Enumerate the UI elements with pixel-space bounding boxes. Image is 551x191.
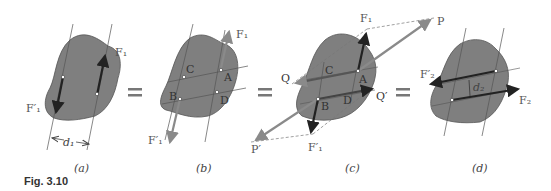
- panel-a: F₁ F′₁ d₁ (a): [26, 24, 127, 175]
- label-A: A: [358, 73, 368, 86]
- equals-sign-2: [258, 88, 272, 97]
- label-F2: F₂: [519, 94, 531, 107]
- point-B: [178, 97, 181, 100]
- force-Pprime-arrow: [256, 99, 318, 140]
- figure-3-10: F₁ F′₁ d₁ (a) C A B D F₁ F′₁ (b): [0, 0, 551, 191]
- point-of-application: [61, 75, 64, 78]
- label-F2prime: F′₂: [420, 68, 435, 81]
- label-Q: Q: [281, 72, 290, 85]
- panel-label-a: (a): [74, 162, 89, 175]
- label-B: B: [321, 100, 329, 113]
- point-D: [215, 90, 218, 93]
- label-Qprime: Q′: [376, 90, 388, 103]
- label-P: P: [437, 15, 445, 28]
- point-of-application: [450, 98, 453, 101]
- label-B: B: [169, 90, 177, 103]
- label-F1prime: F′₁: [26, 102, 41, 115]
- equals-sign-3: [396, 88, 410, 97]
- equals-sign-1: [128, 88, 142, 97]
- label-F1: F₁: [360, 12, 372, 25]
- label-F1prime: F′₁: [308, 141, 323, 154]
- label-d1: d₁: [63, 136, 74, 149]
- label-D: D: [220, 94, 229, 107]
- panel-label-d: (d): [472, 162, 488, 175]
- figure-caption: Fig. 3.10: [24, 175, 68, 187]
- point-of-application: [95, 92, 98, 95]
- label-C: C: [325, 64, 333, 77]
- panel-c: C A B D F₁ F′₁ P P′ Q Q′ (c): [251, 12, 445, 175]
- panel-b: C A B D F₁ F′₁ (b): [148, 24, 248, 175]
- label-F1prime: F′₁: [148, 134, 163, 147]
- point-A: [219, 68, 222, 71]
- panel-label-c: (c): [345, 162, 360, 175]
- force-P-arrow: [358, 20, 430, 71]
- panel-label-b: (b): [196, 162, 212, 175]
- label-A: A: [223, 71, 233, 84]
- point-of-application: [494, 69, 497, 72]
- point-B: [316, 97, 319, 100]
- label-C: C: [186, 63, 194, 76]
- label-Pprime: P′: [251, 143, 261, 156]
- distance-d1-arrow: [76, 142, 89, 144]
- label-d2: d₂: [473, 81, 484, 94]
- label-F1: F₁: [115, 46, 127, 59]
- label-D: D: [343, 94, 352, 107]
- label-F1: F₁: [236, 28, 248, 41]
- panel-d: d₂ F′₂ F₂ (d): [420, 28, 531, 175]
